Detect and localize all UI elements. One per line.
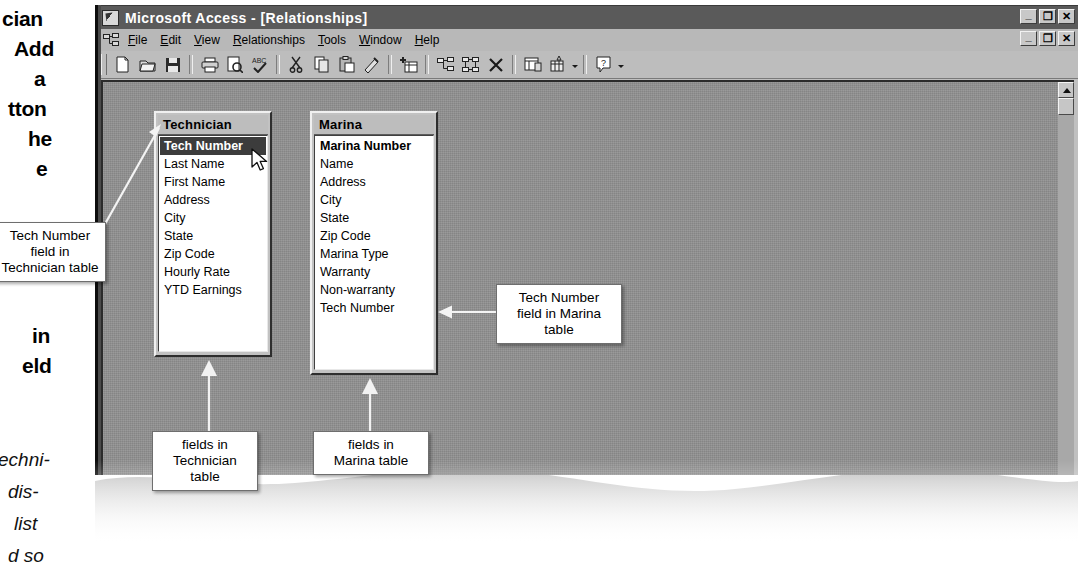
field-list-title-technician[interactable]: Technician <box>158 115 268 135</box>
access-key-icon <box>102 10 119 26</box>
new-icon[interactable] <box>111 54 134 76</box>
toolbar-separator-4 <box>425 55 429 74</box>
title-bar: Microsoft Access - [Relationships] _ ❐ ✕ <box>97 6 1078 30</box>
menu-item-tools[interactable]: Tools <box>318 33 346 47</box>
child-close-button[interactable]: ✕ <box>1058 31 1075 46</box>
new-object-icon[interactable] <box>546 54 569 76</box>
database-window-icon[interactable] <box>521 54 544 76</box>
print-preview-icon[interactable] <box>223 54 246 76</box>
field-row-hourly-rate[interactable]: Hourly Rate <box>160 263 266 281</box>
new-object-dropdown-caret[interactable] <box>570 55 579 75</box>
scrollbar-thumb[interactable] <box>1058 98 1074 115</box>
app-close-button[interactable]: ✕ <box>1058 9 1075 24</box>
show-table-icon[interactable] <box>397 54 420 76</box>
margin-bold2-line-1: eld <box>22 355 51 376</box>
open-folder-icon[interactable] <box>136 54 159 76</box>
field-row-last-name[interactable]: Last Name <box>160 155 266 173</box>
margin-text-column: cian Add a tton he e in eld echni- dis- … <box>0 0 95 574</box>
relationships-canvas[interactable]: Technician Tech Number Last Name First N… <box>101 80 1074 475</box>
scroll-up-button[interactable] <box>1058 82 1074 98</box>
menu-item-edit[interactable]: Edit <box>160 33 181 47</box>
field-row-marina-state[interactable]: State <box>316 209 432 227</box>
field-row-address[interactable]: Address <box>160 191 266 209</box>
margin-italic-line-3: d so <box>8 546 44 565</box>
child-minimize-button[interactable]: _ <box>1020 31 1037 46</box>
field-row-city[interactable]: City <box>160 209 266 227</box>
clear-layout-icon[interactable] <box>484 54 507 76</box>
save-disk-icon[interactable] <box>161 54 184 76</box>
app-restore-button[interactable]: ❐ <box>1039 9 1056 24</box>
margin-bold-line-5: e <box>36 158 47 179</box>
menu-view-mnemonic: V <box>194 33 202 47</box>
field-row-marina-number[interactable]: Marina Number <box>316 137 432 155</box>
toolbar-separator-3 <box>388 55 392 74</box>
callout-fields-marina: fields in Marina table <box>313 431 429 475</box>
menu-bar: File Edit View Relationships Tools Windo… <box>97 29 1078 52</box>
callout-tech-number-technician-text: Tech Number field in Technician table <box>1 228 99 276</box>
help-dropdown-caret[interactable] <box>616 55 625 75</box>
menu-tools-rest: ools <box>324 33 346 47</box>
menu-edit-rest: dit <box>168 33 181 47</box>
margin-italic-line-0: echni- <box>0 450 50 469</box>
field-row-warranty[interactable]: Warranty <box>316 263 432 281</box>
print-icon[interactable] <box>198 54 221 76</box>
child-restore-button[interactable]: ❐ <box>1039 31 1056 46</box>
menu-help-mnemonic: H <box>415 33 424 47</box>
field-row-marina-zip-code[interactable]: Zip Code <box>316 227 432 245</box>
field-list-title-marina[interactable]: Marina <box>314 115 434 135</box>
help-question-icon[interactable]: ? <box>592 54 615 76</box>
callout-fields-technician-text: fields in Technician table <box>159 437 251 485</box>
margin-italic-line-1: dis- <box>8 482 39 501</box>
toolbar-separator-1 <box>189 55 193 74</box>
field-list-technician[interactable]: Technician Tech Number Last Name First N… <box>154 111 272 357</box>
field-list-body-marina[interactable]: Marina Number Name Address City State Zi… <box>314 135 434 370</box>
menu-item-window[interactable]: Window <box>359 33 402 47</box>
field-list-body-technician[interactable]: Tech Number Last Name First Name Address… <box>158 135 268 352</box>
field-row-ytd-earnings[interactable]: YTD Earnings <box>160 281 266 299</box>
relationships-icon[interactable] <box>103 33 120 48</box>
menu-item-relationships[interactable]: Relationships <box>233 33 305 47</box>
callout-tech-number-marina: Tech Number field in Marina table <box>496 284 622 344</box>
access-application-window: Microsoft Access - [Relationships] _ ❐ ✕… <box>95 5 1078 475</box>
callout-tech-number-technician: Tech Number field in Technician table <box>0 222 106 282</box>
menu-relationships-rest: elationships <box>242 33 305 47</box>
field-list-marina[interactable]: Marina Marina Number Name Address City S… <box>310 111 438 375</box>
margin-bold-line-3: tton <box>8 98 46 119</box>
field-row-marina-tech-number[interactable]: Tech Number <box>316 299 432 317</box>
app-minimize-button[interactable]: _ <box>1020 9 1037 24</box>
show-all-relationships-icon[interactable] <box>459 54 482 76</box>
toolbar-grip[interactable] <box>101 54 107 75</box>
paste-icon[interactable] <box>335 54 358 76</box>
svg-text:ABC: ABC <box>252 57 266 64</box>
field-row-non-warranty[interactable]: Non-warranty <box>316 281 432 299</box>
field-row-marina-city[interactable]: City <box>316 191 432 209</box>
field-row-marina-type[interactable]: Marina Type <box>316 245 432 263</box>
spelling-check-icon[interactable]: ABC <box>248 54 271 76</box>
field-row-marina-name[interactable]: Name <box>316 155 432 173</box>
toolbar-separator-2 <box>276 55 280 74</box>
margin-bold-line-4: he <box>28 128 52 149</box>
callout-fields-technician: fields in Technician table <box>152 431 258 491</box>
field-row-marina-address[interactable]: Address <box>316 173 432 191</box>
format-painter-icon[interactable] <box>360 54 383 76</box>
child-window-controls: _ ❐ ✕ <box>1020 31 1075 46</box>
menu-view-rest: iew <box>202 33 220 47</box>
cut-scissors-icon[interactable] <box>285 54 308 76</box>
field-row-tech-number[interactable]: Tech Number <box>160 137 266 155</box>
show-direct-relationships-icon[interactable] <box>434 54 457 76</box>
field-row-state[interactable]: State <box>160 227 266 245</box>
menu-file-rest: ile <box>135 33 147 47</box>
field-row-first-name[interactable]: First Name <box>160 173 266 191</box>
menu-item-view[interactable]: View <box>194 33 220 47</box>
menu-item-file[interactable]: File <box>128 33 147 47</box>
svg-text:?: ? <box>601 58 606 68</box>
menu-item-help[interactable]: Help <box>415 33 440 47</box>
vertical-scrollbar[interactable] <box>1058 82 1074 475</box>
menu-window-rest: indow <box>370 33 401 47</box>
menu-relationships-mnemonic: R <box>233 33 242 47</box>
app-window-controls: _ ❐ ✕ <box>1020 9 1075 24</box>
copy-icon[interactable] <box>310 54 333 76</box>
margin-italic-line-2: list <box>14 514 37 533</box>
toolbar: ABC <box>97 51 1078 79</box>
field-row-zip-code[interactable]: Zip Code <box>160 245 266 263</box>
